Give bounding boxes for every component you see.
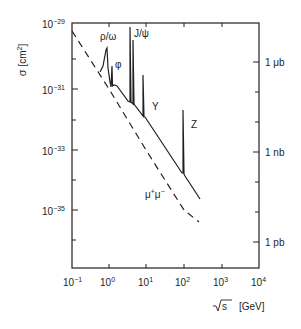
plot-frame	[72, 23, 259, 268]
y-ticks-left	[72, 59, 78, 240]
svg-text:101: 101	[138, 276, 153, 288]
peak-label-z: Z	[191, 119, 197, 130]
cross-section-chart: 10−1 100 101 102 103 104 10−29 10−31 10−…	[0, 0, 301, 329]
mumu-label: μ+μ−	[145, 188, 165, 200]
x-axis-label: s [GeV]	[213, 300, 265, 312]
peak-label-jpsi: J/ψ	[134, 28, 149, 39]
svg-text:s: s	[222, 301, 227, 312]
svg-text:10−33: 10−33	[42, 145, 65, 157]
svg-text:10−1: 10−1	[63, 276, 82, 288]
svg-text:1 nb: 1 nb	[265, 147, 285, 158]
y-tick-labels-left: 10−29 10−31 10−33 10−35	[42, 18, 65, 217]
x-ticks	[109, 23, 222, 268]
svg-text:100: 100	[100, 276, 115, 288]
y-ticks-right	[253, 62, 259, 242]
svg-text:103: 103	[213, 276, 228, 288]
y-axis-label: σ [cm2]	[16, 44, 28, 77]
svg-text:1 μb: 1 μb	[265, 57, 285, 68]
svg-text:10−29: 10−29	[42, 18, 65, 30]
svg-text:[GeV]: [GeV]	[239, 301, 265, 312]
peak-label-rho-omega: ρ/ω	[100, 31, 116, 42]
x-tick-labels: 10−1 100 101 102 103 104	[63, 276, 266, 288]
svg-text:10−35: 10−35	[42, 205, 65, 217]
svg-text:104: 104	[251, 276, 266, 288]
peak-label-upsilon: Υ	[152, 101, 159, 112]
peak-label-phi: φ	[115, 59, 122, 70]
mumu-dashed-line	[72, 31, 199, 222]
hadron-cross-section-curve	[100, 27, 200, 199]
svg-text:10−31: 10−31	[42, 84, 65, 96]
y-tick-labels-right: 1 μb 1 nb 1 pb	[265, 57, 285, 248]
svg-text:102: 102	[175, 276, 190, 288]
svg-text:1 pb: 1 pb	[265, 237, 285, 248]
